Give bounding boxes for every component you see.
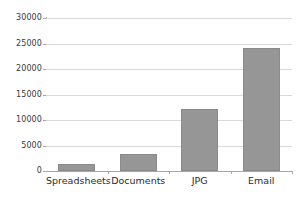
plot-area [46, 18, 292, 171]
x-tick-label-email: Email [231, 175, 293, 187]
x-tick-label-spreadsheets: Spreadsheets [46, 175, 108, 187]
y-tick-mark-10000 [43, 120, 46, 121]
y-tick-label-25000: 25000 [2, 39, 42, 48]
gridline-30000 [46, 18, 292, 19]
x-tick-label-documents: Documents [108, 175, 170, 187]
y-tick-label-30000: 30000 [2, 13, 42, 22]
y-tick-mark-25000 [43, 44, 46, 45]
y-tick-label-5000: 5000 [2, 141, 42, 150]
bar-jpg [181, 109, 218, 171]
x-tick-mark-2 [169, 171, 170, 174]
y-tick-label-15000: 15000 [2, 90, 42, 99]
x-axis-labels: SpreadsheetsDocumentsJPGEmail [46, 175, 292, 195]
y-tick-mark-20000 [43, 69, 46, 70]
y-tick-label-0: 0 [2, 166, 42, 175]
bar-email [243, 48, 280, 171]
x-tick-mark-end [292, 171, 293, 174]
y-tick-mark-30000 [43, 18, 46, 19]
bar-spreadsheets [58, 164, 95, 171]
y-tick-label-10000: 10000 [2, 115, 42, 124]
bar-chart: 050001000015000200002500030000 Spreadshe… [0, 0, 303, 204]
gridline-25000 [46, 44, 292, 45]
bar-documents [120, 154, 157, 171]
x-tick-mark-3 [231, 171, 232, 174]
x-tick-mark-1 [108, 171, 109, 174]
y-tick-mark-0 [43, 171, 46, 172]
y-axis-labels: 050001000015000200002500030000 [0, 0, 42, 204]
y-tick-label-20000: 20000 [2, 64, 42, 73]
y-tick-mark-15000 [43, 95, 46, 96]
x-tick-label-jpg: JPG [169, 175, 231, 187]
y-tick-mark-5000 [43, 146, 46, 147]
